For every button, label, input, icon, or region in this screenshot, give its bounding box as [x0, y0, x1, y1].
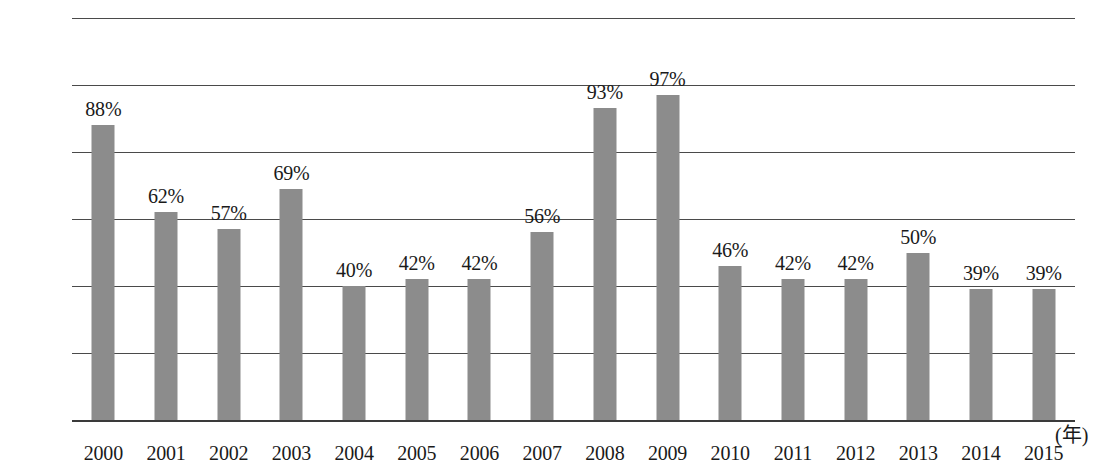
x-axis-tick-label: 2001 — [146, 443, 185, 463]
bar-value-label: 42% — [399, 253, 435, 273]
x-axis-tick-label: 2008 — [585, 443, 624, 463]
x-axis-tick-label: 2000 — [84, 443, 123, 463]
bar-group: 42%2006 — [448, 18, 511, 420]
bar-group: 62%2001 — [135, 18, 198, 420]
bar-value-label: 62% — [148, 186, 184, 206]
bar[interactable] — [343, 286, 366, 420]
bar-group: 39%2015 — [1012, 18, 1075, 420]
x-axis-tick-label: 2009 — [648, 443, 687, 463]
bar-group: 97%2009 — [636, 18, 699, 420]
bar-group: 50%2013 — [887, 18, 950, 420]
x-axis-tick-label: 2014 — [961, 443, 1000, 463]
x-axis-tick-label: 2013 — [899, 443, 938, 463]
bar-group: 88%2000 — [72, 18, 135, 420]
bar-value-label: 39% — [1026, 263, 1062, 283]
bar-value-label: 39% — [963, 263, 999, 283]
bar[interactable] — [92, 125, 115, 420]
bar-value-label: 40% — [336, 260, 372, 280]
bar[interactable] — [155, 212, 178, 420]
bar-value-label: 56% — [524, 206, 560, 226]
x-axis-tick-label: 2005 — [397, 443, 436, 463]
bar[interactable] — [719, 266, 742, 420]
bar-value-label: 69% — [273, 163, 309, 183]
bar[interactable] — [907, 253, 930, 421]
bar-value-label: 57% — [211, 203, 247, 223]
bar-group: 42%2005 — [385, 18, 448, 420]
bar-group: 39%2014 — [950, 18, 1013, 420]
x-axis-tick-label: 2006 — [460, 443, 499, 463]
bar[interactable] — [217, 229, 240, 420]
bar[interactable] — [593, 108, 616, 420]
x-axis-unit-label: (年) — [1055, 425, 1088, 445]
bar-value-label: 50% — [900, 227, 936, 247]
bar-group: 93%2008 — [574, 18, 637, 420]
bar-group: 42%2012 — [824, 18, 887, 420]
x-axis-tick-label: 2003 — [272, 443, 311, 463]
x-axis-tick-label: 2011 — [774, 443, 812, 463]
bar[interactable] — [781, 279, 804, 420]
x-axis-tick-label: 2010 — [711, 443, 750, 463]
bar-value-label: 93% — [587, 82, 623, 102]
bar-value-label: 42% — [838, 253, 874, 273]
bar[interactable] — [531, 232, 554, 420]
bar-group: 40%2004 — [323, 18, 386, 420]
bar-group: 57%2002 — [197, 18, 260, 420]
x-axis-tick-label: 2002 — [209, 443, 248, 463]
bar-value-label: 88% — [85, 99, 121, 119]
x-axis-tick-label: 2015 — [1024, 443, 1063, 463]
bar-group: 69%2003 — [260, 18, 323, 420]
bar-value-label: 46% — [712, 240, 748, 260]
bar-value-label: 42% — [461, 253, 497, 273]
bar-group: 46%2010 — [699, 18, 762, 420]
bar-group: 42%2011 — [762, 18, 825, 420]
x-axis-tick-label: 2007 — [523, 443, 562, 463]
bar[interactable] — [280, 189, 303, 420]
bar[interactable] — [969, 289, 992, 420]
bar[interactable] — [405, 279, 428, 420]
x-axis-tick-label: 2012 — [836, 443, 875, 463]
bar-group: 56%2007 — [511, 18, 574, 420]
bar[interactable] — [468, 279, 491, 420]
bar-value-label: 97% — [650, 69, 686, 89]
bar[interactable] — [844, 279, 867, 420]
x-axis-tick-label: 2004 — [334, 443, 373, 463]
bar[interactable] — [1032, 289, 1055, 420]
bar[interactable] — [656, 95, 679, 420]
bar-value-label: 42% — [775, 253, 811, 273]
bars-layer: 88%200062%200157%200269%200340%200442%20… — [72, 0, 1075, 453]
